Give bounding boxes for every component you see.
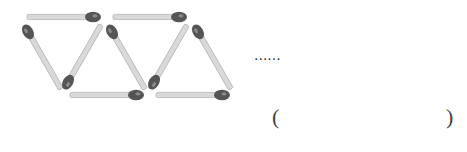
match-diagonal-5 bbox=[189, 22, 235, 91]
match-top-1 bbox=[27, 12, 101, 22]
match-diagonal-2 bbox=[59, 22, 105, 91]
match-bottom-1 bbox=[70, 90, 144, 100]
continuation-ellipsis: ...... bbox=[254, 47, 281, 63]
answer-open-paren: ( bbox=[272, 104, 279, 130]
match-bottom-2 bbox=[156, 90, 230, 100]
match-diagonal-4 bbox=[145, 22, 191, 91]
answer-close-paren: ) bbox=[446, 104, 453, 130]
match-diagonal-1 bbox=[19, 22, 65, 91]
answer-blank[interactable] bbox=[290, 108, 440, 128]
match-top-2 bbox=[113, 12, 187, 22]
matchstick-figure bbox=[0, 0, 250, 110]
match-diagonal-3 bbox=[103, 22, 149, 91]
